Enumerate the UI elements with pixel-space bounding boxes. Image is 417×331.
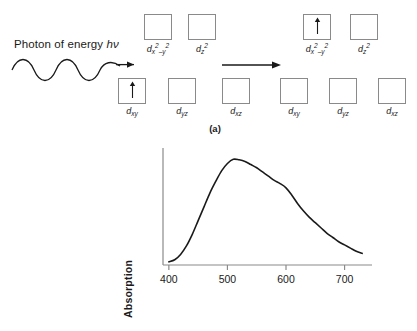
orb-sub: xz xyxy=(391,110,398,117)
orbital-label-right-dz2: dz2 xyxy=(334,42,394,54)
orbital-box-left-dxz[interactable] xyxy=(222,78,250,104)
orbital-label-left-dxz: dxz xyxy=(206,106,266,116)
figure-container: Photon of energy hν dx2–y2 dz2 xyxy=(0,0,417,331)
x-tick-label: 600 xyxy=(277,273,295,285)
absorption-curve xyxy=(169,159,362,262)
x-tick-label: 500 xyxy=(219,273,237,285)
orb-sub: x xyxy=(311,48,314,55)
y-axis-label: Absorption xyxy=(122,260,134,318)
orbital-box-right-dxz[interactable] xyxy=(378,78,406,104)
orbital-label-right-dxz: dxz xyxy=(362,106,417,116)
electron-arrow-left-dxy xyxy=(128,81,137,99)
photon-energy-label: Photon of energy hν xyxy=(14,38,119,50)
x-tick-label: 400 xyxy=(160,273,178,285)
photon-energy-symbol: hν xyxy=(107,38,119,50)
orb-sup: 2 xyxy=(204,42,208,49)
orb-sub: xy xyxy=(131,110,138,117)
orb-sub: z xyxy=(201,48,204,55)
orb-sup2: 2 xyxy=(166,42,170,49)
orbital-box-right-dyz[interactable] xyxy=(329,78,357,104)
orb-sub: z xyxy=(363,48,366,55)
orb-sub: x xyxy=(152,48,155,55)
electron-arrow-right-dx2-y2 xyxy=(313,17,322,35)
orb-sub: xy xyxy=(293,110,300,117)
panel-a-caption: (a) xyxy=(185,123,245,134)
orbital-box-left-dz2[interactable] xyxy=(188,14,216,40)
panel-a-orbital-diagram: Photon of energy hν dx2–y2 dz2 xyxy=(0,0,417,140)
photon-label-text: Photon of energy xyxy=(14,38,107,50)
panel-b-absorption-spectrum: 400500600700 Absorption Wavelength/nm (b… xyxy=(0,140,417,331)
orb-sub2: –y xyxy=(318,48,325,55)
orb-sup: 2 xyxy=(366,42,370,49)
orbital-box-right-dxy[interactable] xyxy=(280,78,308,104)
orb-sub: yz xyxy=(342,110,349,117)
orb-sub2: –y xyxy=(159,48,166,55)
orbital-box-left-dx2-y2[interactable] xyxy=(144,14,172,40)
absorption-spectrum-plot: 400500600700 xyxy=(100,140,390,290)
right-arrow-icon xyxy=(222,57,282,69)
orb-sup2: 2 xyxy=(325,42,329,49)
x-tick-label: 700 xyxy=(336,273,354,285)
orbital-label-left-dz2: dz2 xyxy=(172,42,232,54)
orbital-box-left-dyz[interactable] xyxy=(168,78,196,104)
orb-sub: xz xyxy=(235,110,242,117)
orbital-label-left-dyz: dyz xyxy=(152,106,212,116)
orbital-box-right-dz2[interactable] xyxy=(350,14,378,40)
orb-sub: yz xyxy=(181,110,188,117)
